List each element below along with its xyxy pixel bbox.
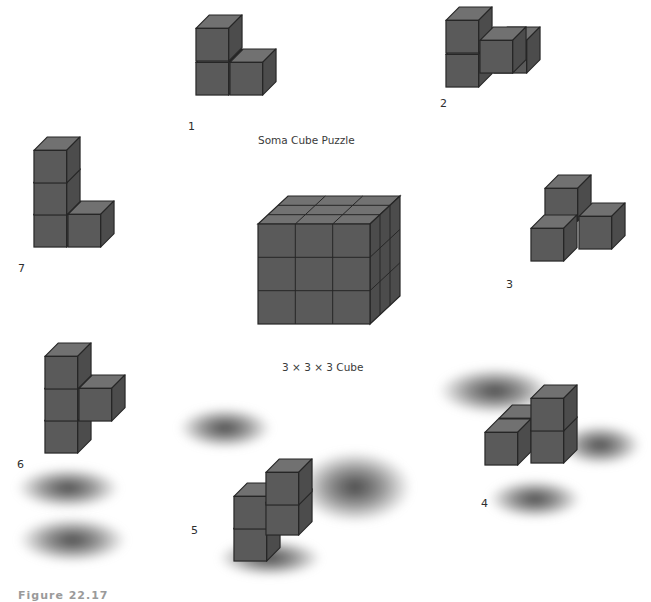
soma-piece-6 bbox=[44, 340, 126, 456]
soma-piece-5 bbox=[233, 458, 315, 564]
piece-label-5: 5 bbox=[191, 524, 198, 537]
center-caption: 3 × 3 × 3 Cube bbox=[282, 361, 363, 373]
figure-title: Soma Cube Puzzle bbox=[258, 134, 355, 146]
assembled-3x3x3-cube bbox=[258, 196, 404, 326]
soma-piece-7 bbox=[33, 132, 115, 254]
piece-label-7: 7 bbox=[18, 262, 25, 275]
soma-piece-3 bbox=[530, 172, 630, 272]
soma-piece-1 bbox=[195, 12, 277, 104]
shadow-blob bbox=[18, 468, 118, 508]
shadow-blob bbox=[490, 480, 580, 518]
shadow-blob bbox=[180, 408, 270, 448]
piece-label-1: 1 bbox=[188, 120, 195, 133]
soma-piece-2 bbox=[445, 4, 545, 96]
figure-caption-partial: Figure 22.17 bbox=[18, 589, 109, 602]
shadow-blob bbox=[300, 452, 410, 522]
piece-label-4: 4 bbox=[481, 497, 488, 510]
soma-piece-4 bbox=[484, 382, 580, 472]
piece-label-6: 6 bbox=[17, 458, 24, 471]
piece-label-3: 3 bbox=[506, 278, 513, 291]
shadow-blob bbox=[20, 518, 125, 562]
piece-label-2: 2 bbox=[440, 97, 447, 110]
